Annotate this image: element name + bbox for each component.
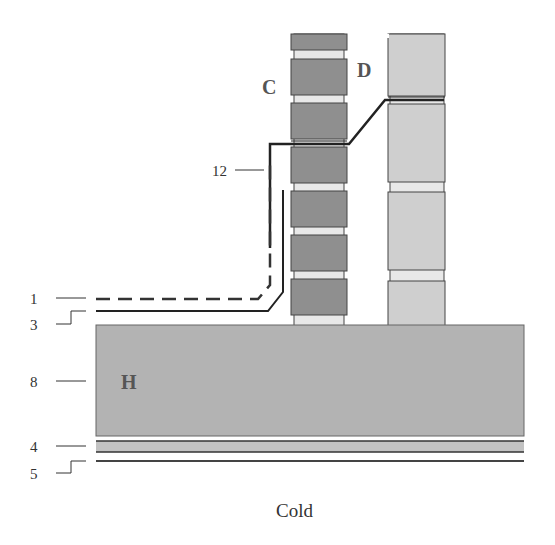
caption-cold: Cold <box>276 500 313 521</box>
region-c-label: C <box>262 76 276 98</box>
region-d-label: D <box>357 59 371 81</box>
callout-12: 12 <box>212 163 227 179</box>
diagram-canvas: 1 3 8 4 5 12 C D H Cold <box>0 0 555 545</box>
layer-4 <box>96 441 524 452</box>
column-c <box>291 34 347 326</box>
column-d <box>388 34 445 326</box>
slab-h <box>96 325 524 436</box>
region-h-label: H <box>121 371 137 393</box>
line-1-dashed <box>96 160 270 299</box>
callout-8: 8 <box>30 374 38 390</box>
callout-3: 3 <box>30 317 38 333</box>
line-3-solid <box>96 190 283 311</box>
callout-5: 5 <box>30 466 38 482</box>
callout-4: 4 <box>30 439 38 455</box>
callout-1: 1 <box>30 291 38 307</box>
